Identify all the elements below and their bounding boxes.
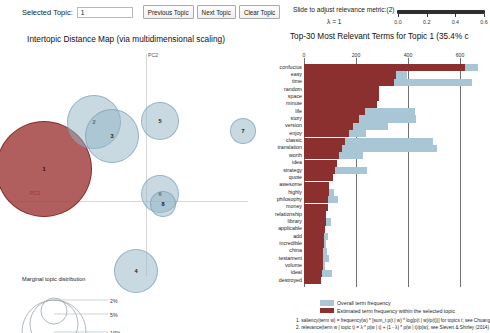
term-label[interactable]: confucius: [280, 64, 302, 71]
bar-topic-frequency: [304, 233, 324, 240]
marginal-legend-circles: [16, 284, 136, 333]
ldavis-root: Selected Topic: Previous Topic Next Topi…: [0, 0, 490, 333]
bar-topic-frequency: [304, 167, 335, 174]
term-row[interactable]: destroyed: [252, 277, 486, 284]
term-label[interactable]: relationship: [275, 211, 302, 218]
term-label[interactable]: volume: [285, 262, 302, 269]
bar-topic-frequency: [304, 152, 339, 159]
relevance-slider-track[interactable]: [397, 10, 485, 14]
marginal-legend-level-2pct: 2%: [110, 298, 118, 304]
term-label[interactable]: add: [293, 233, 302, 240]
term-row[interactable]: incredible: [252, 240, 486, 247]
term-label[interactable]: highly: [288, 189, 302, 196]
term-label[interactable]: strategy: [283, 167, 302, 174]
bar-topic-frequency: [304, 204, 328, 211]
pc2-axis-label: PC2: [148, 52, 158, 58]
bar-topic-frequency: [304, 196, 328, 203]
slider-tick: 0.6: [484, 14, 485, 17]
topic-bubble-label-5: 5: [158, 118, 161, 124]
slider-tick-mark: [484, 14, 485, 17]
term-label[interactable]: library: [288, 218, 302, 225]
term-label[interactable]: worth: [289, 152, 302, 159]
slider-tick-mark: [398, 14, 399, 17]
term-label[interactable]: china: [289, 247, 302, 254]
slider-tick-label: 0.0: [394, 19, 401, 25]
bar-topic-frequency: [304, 123, 353, 130]
term-label[interactable]: testament: [279, 255, 302, 262]
term-row[interactable]: applicable: [252, 226, 486, 233]
slider-tick-label: 0.4: [452, 19, 459, 25]
legend-item-overall: Overall term frequency: [320, 300, 455, 306]
legend-label-topic: Estimated term frequency within the sele…: [337, 308, 455, 314]
term-label[interactable]: incredible: [279, 240, 302, 247]
clear-topic-button[interactable]: Clear Topic: [239, 5, 280, 19]
term-label[interactable]: version: [285, 122, 302, 129]
term-row[interactable]: translation: [252, 145, 486, 152]
term-label[interactable]: life: [295, 108, 302, 115]
term-label[interactable]: awesome: [279, 181, 302, 188]
term-row[interactable]: volume: [252, 262, 486, 269]
bar-topic-frequency: [304, 189, 329, 196]
term-label[interactable]: applicable: [278, 225, 302, 232]
term-row[interactable]: strategy: [252, 167, 486, 174]
term-row[interactable]: worth: [252, 152, 486, 159]
previous-topic-button[interactable]: Previous Topic: [143, 5, 194, 19]
relevance-slider-ticks: 0.00.20.40.6: [397, 14, 485, 26]
term-row[interactable]: life: [252, 108, 486, 115]
term-label[interactable]: space: [288, 93, 302, 100]
term-label[interactable]: classic: [286, 137, 302, 144]
term-label[interactable]: philosophy: [277, 196, 302, 203]
next-topic-button[interactable]: Next Topic: [197, 5, 236, 19]
footnotes: 1. saliency(term w) = frequency(w) * [su…: [296, 318, 490, 331]
topic-bubble-label-3: 3: [110, 133, 113, 139]
x-axis-tick-mark: [460, 58, 461, 62]
bar-topic-frequency: [304, 160, 337, 167]
term-row[interactable]: minute: [252, 101, 486, 108]
bar-topic-frequency: [304, 101, 377, 108]
bar-topic-frequency: [304, 218, 326, 225]
lambda-value-label: λ = 1: [327, 18, 341, 25]
term-label[interactable]: minute: [286, 100, 302, 107]
term-label[interactable]: random: [284, 86, 302, 93]
bar-topic-frequency: [304, 108, 365, 115]
term-label[interactable]: easy: [291, 71, 302, 78]
bar-topic-frequency: [304, 270, 322, 277]
term-label[interactable]: ideal: [291, 269, 302, 276]
term-label[interactable]: quote: [289, 174, 302, 181]
topic-controls: Selected Topic: Previous Topic Next Topi…: [0, 0, 245, 24]
term-row[interactable]: awesome: [252, 182, 486, 189]
bar-chart-title: Top-30 Most Relevant Terms for Topic 1 (…: [290, 32, 469, 41]
slider-tick-label: 0.2: [423, 19, 430, 25]
term-label[interactable]: destroyed: [279, 277, 302, 284]
term-row[interactable]: confucius: [252, 64, 486, 71]
term-label[interactable]: enjoy: [289, 130, 302, 137]
bar-chart-legend: Overall term frequency Estimated term fr…: [320, 300, 455, 315]
topic-bubble-label-8: 8: [161, 201, 164, 207]
slider-tick-label: 0.6: [480, 19, 487, 25]
legend-item-topic: Estimated term frequency within the sele…: [320, 308, 455, 314]
term-label[interactable]: story: [291, 115, 302, 122]
footnote-saliency: 1. saliency(term w) = frequency(w) * [su…: [296, 318, 490, 325]
bar-topic-frequency: [304, 262, 323, 269]
term-label[interactable]: translation: [278, 144, 302, 151]
bar-topic-frequency: [304, 71, 396, 78]
term-row[interactable]: easy: [252, 71, 486, 78]
intertopic-scatter-plot[interactable]: PC2 PC1 12357684: [0, 26, 252, 281]
marginal-legend-level-5pct: 5%: [110, 312, 118, 318]
term-label[interactable]: idea: [292, 159, 302, 166]
term-row[interactable]: version: [252, 123, 486, 130]
topic-bubble-label-1: 1: [42, 166, 45, 172]
bar-topic-frequency: [304, 255, 323, 262]
top-terms-bar-chart[interactable]: 0200400600confuciuseasytimerandomspacemi…: [252, 48, 490, 298]
selected-topic-input[interactable]: [77, 7, 133, 18]
legend-swatch-topic: [320, 308, 334, 314]
bar-topic-frequency: [304, 277, 321, 284]
bar-topic-frequency: [304, 211, 326, 218]
slider-tick: 0.0: [398, 14, 399, 17]
term-label[interactable]: money: [286, 203, 302, 210]
term-label[interactable]: time: [292, 78, 302, 85]
bar-topic-frequency: [304, 93, 379, 100]
topic-bubble-label-7: 7: [241, 128, 244, 134]
marginal-legend-title: Marginal topic distribution: [22, 276, 136, 282]
slider-tick-mark: [455, 14, 456, 17]
